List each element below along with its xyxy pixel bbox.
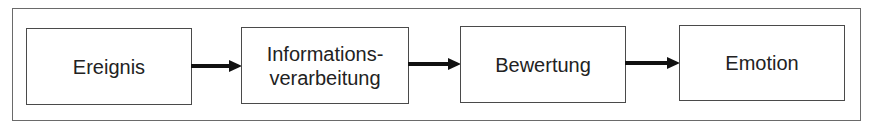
arrow-3-icon	[625, 53, 680, 73]
node-ereignis: Ereignis	[26, 28, 192, 105]
arrow-2-icon	[408, 54, 461, 74]
node-label: Ereignis	[73, 55, 145, 79]
node-emotion: Emotion	[679, 25, 845, 101]
node-label: Bewertung	[495, 53, 591, 77]
node-label: Emotion	[725, 51, 798, 75]
node-bewertung: Bewertung	[460, 26, 626, 103]
node-informationsverarbeitung: Informations- verarbeitung	[241, 27, 409, 104]
node-label-line1: Informations-	[267, 42, 384, 66]
arrow-1-icon	[191, 56, 242, 76]
node-label-line2: verarbeitung	[267, 66, 384, 90]
